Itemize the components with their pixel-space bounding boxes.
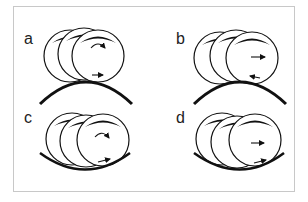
balls-c	[46, 113, 129, 167]
panel-b: b	[176, 30, 286, 104]
panel-label-d: d	[176, 109, 185, 126]
panel-a: a	[24, 28, 132, 104]
panel-c: c	[24, 109, 130, 170]
convex-surface	[40, 82, 132, 104]
panel-label-b: b	[176, 30, 185, 47]
balls-b	[194, 30, 278, 84]
panel-label-c: c	[24, 109, 32, 126]
rolling-sliding-diagram: a b c d	[0, 0, 308, 202]
balls-a	[44, 28, 124, 82]
panel-d: d	[176, 109, 284, 170]
convex-surface	[194, 82, 286, 104]
balls-d	[196, 113, 281, 168]
panel-label-a: a	[24, 30, 33, 47]
